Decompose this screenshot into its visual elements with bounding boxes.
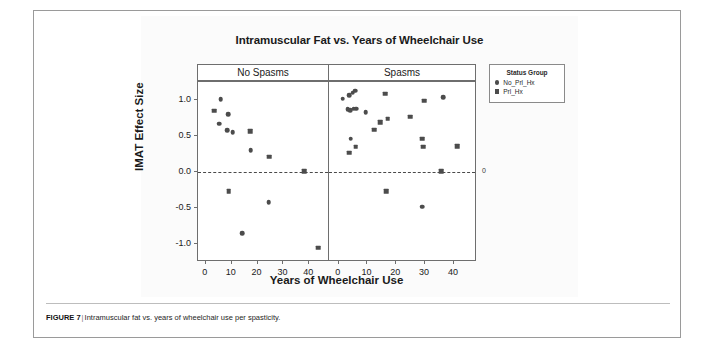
caption-label: FIGURE 7 <box>46 313 81 322</box>
data-point <box>353 88 358 93</box>
data-point <box>226 112 231 117</box>
figure-caption: FIGURE 7|Intramuscular fat vs. years of … <box>46 313 661 323</box>
x-tick-mark <box>395 261 396 264</box>
x-tick-mark <box>366 261 367 264</box>
legend-entries: No_Prl_HxPrl_Hx <box>495 79 559 95</box>
x-tick-mark <box>231 261 232 264</box>
data-point <box>225 128 230 133</box>
data-point <box>218 97 223 102</box>
data-points-no-spasms <box>198 82 328 260</box>
zero-reference-label: 0 <box>482 167 486 174</box>
chart-plot-area: Intramuscular Fat vs. Years of Wheelchai… <box>141 16 578 297</box>
data-point <box>420 204 425 209</box>
legend-item-label: Prl_Hx <box>503 88 523 95</box>
data-point <box>408 114 413 119</box>
data-point <box>378 120 383 125</box>
x-tick-mark <box>257 261 258 264</box>
data-point <box>386 116 391 121</box>
zero-reference-line <box>198 172 328 173</box>
y-tick-label: 0.0 <box>145 166 191 176</box>
data-point <box>212 109 217 114</box>
y-tick-label: 0.5 <box>145 130 191 140</box>
data-point <box>455 144 460 149</box>
x-tick-mark <box>338 261 339 264</box>
data-point <box>217 121 222 126</box>
panel-header-spasms: Spasms <box>329 64 476 81</box>
legend-item[interactable]: No_Prl_Hx <box>495 79 559 86</box>
x-tick-mark <box>205 261 206 264</box>
data-points-spasms <box>329 82 475 260</box>
data-point <box>383 91 388 96</box>
legend-title: Status Group <box>495 69 559 76</box>
legend-item[interactable]: Prl_Hx <box>495 88 559 95</box>
scatter-panel-no-spasms <box>197 81 329 261</box>
data-point <box>347 150 352 155</box>
data-point <box>354 106 359 111</box>
x-tick-mark <box>308 261 309 264</box>
data-point <box>230 130 235 135</box>
data-point <box>353 145 358 150</box>
zero-reference-line <box>329 172 475 173</box>
legend-item-label: No_Prl_Hx <box>503 79 534 86</box>
square-marker-icon <box>495 89 499 93</box>
data-point <box>226 189 231 194</box>
caption-divider <box>46 303 670 304</box>
circle-marker-icon <box>495 80 499 84</box>
data-point <box>349 137 354 142</box>
x-tick-mark <box>453 261 454 264</box>
y-tick-label: -0.5 <box>145 202 191 212</box>
x-axis-title: Years of Wheelchair Use <box>197 274 476 286</box>
data-point <box>441 95 446 100</box>
y-tick-label: -1.0 <box>145 238 191 248</box>
y-axis-title: IMAT Effect Size <box>133 82 145 171</box>
data-point <box>421 145 426 150</box>
data-point <box>341 96 346 101</box>
y-tick-label: 1.0 <box>145 94 191 104</box>
caption-text: Intramuscular fat vs. years of wheelchai… <box>85 313 281 322</box>
data-point <box>422 98 427 103</box>
x-tick-mark <box>424 261 425 264</box>
data-point <box>266 200 271 205</box>
data-point <box>249 148 254 153</box>
data-point <box>316 245 321 250</box>
data-point <box>372 127 377 132</box>
x-tick-mark <box>282 261 283 264</box>
figure-frame: Intramuscular Fat vs. Years of Wheelchai… <box>33 10 681 338</box>
data-point <box>364 110 369 115</box>
data-point <box>384 189 389 194</box>
legend: Status Group No_Prl_HxPrl_Hx <box>489 64 565 103</box>
data-point <box>267 155 272 160</box>
chart-title: Intramuscular Fat vs. Years of Wheelchai… <box>141 34 578 46</box>
scatter-panel-spasms <box>329 81 476 261</box>
data-point <box>248 129 253 134</box>
data-point <box>240 231 245 236</box>
panel-header-no-spasms: No Spasms <box>197 64 329 81</box>
data-point <box>420 137 425 142</box>
